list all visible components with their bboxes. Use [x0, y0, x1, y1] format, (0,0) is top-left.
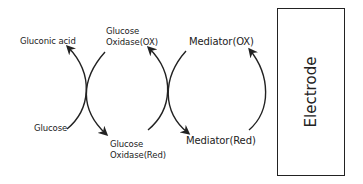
label-mediator-ox: Mediator(OX): [189, 36, 254, 48]
label-mediator-red: Mediator(Red): [186, 135, 256, 147]
arrow-gox-ox-to-gox-red: [86, 52, 106, 134]
label-glucose-oxidase-ox-line1: Glucose: [106, 26, 158, 37]
arrow-glucose-to-gluconic-acid: [67, 47, 86, 129]
label-glucose: Glucose: [34, 123, 67, 134]
label-glucose-oxidase-red-line1: Glucose: [110, 139, 166, 150]
label-glucose-oxidase-ox: Glucose Oxidase(OX): [106, 26, 158, 48]
arrow-mediator-ox-to-mediator-red: [168, 51, 188, 133]
label-glucose-oxidase-red-line2: Oxidase(Red): [110, 150, 166, 161]
label-glucose-oxidase-ox-line2: Oxidase(OX): [106, 37, 158, 48]
electrode-box: Electrode: [277, 8, 345, 176]
arrow-gox-red-to-gox-ox: [148, 48, 168, 130]
label-gluconic-acid: Gluconic acid: [20, 36, 76, 47]
electrode-label: Electrode: [302, 57, 320, 128]
label-glucose-oxidase-red: Glucose Oxidase(Red): [110, 139, 166, 161]
arrow-mediator-red-to-mediator-ox: [249, 50, 266, 130]
